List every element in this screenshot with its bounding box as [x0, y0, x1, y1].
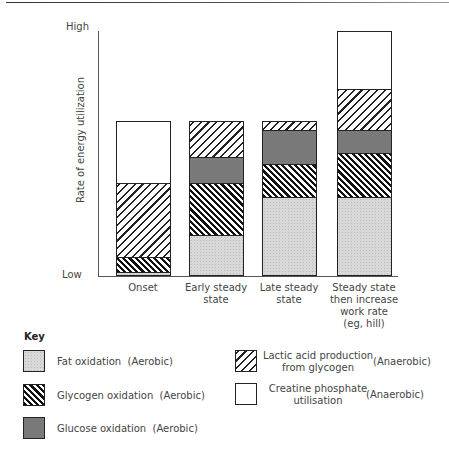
fat-segment: [117, 272, 170, 275]
glucose-segment: [190, 157, 243, 183]
lactic-segment: [263, 122, 316, 130]
legend-lactic: Lactic acid production from glycogen: [258, 350, 378, 374]
glycogen-segment: [190, 183, 243, 236]
lactic-segment: [338, 89, 391, 130]
lactic-segment: [190, 122, 243, 157]
fat-segment: [190, 235, 243, 275]
x-category-hill: Steady state then increase work rate (eg…: [319, 282, 409, 330]
legend-label: Glycogen oxidation: [57, 390, 153, 401]
fat-swatch-icon: [23, 350, 45, 372]
legend-type: (Aerobic): [160, 390, 205, 401]
x-category-line: work rate: [319, 306, 409, 318]
lactic-swatch-icon: [235, 350, 257, 372]
x-category-line: Steady state: [319, 282, 409, 294]
y-tick-low: Low: [62, 269, 82, 280]
fat-segment: [263, 197, 316, 275]
legend-type: (Aerobic): [153, 423, 198, 434]
glucose-segment: [263, 130, 316, 164]
bar-2: [189, 121, 244, 276]
legend-label: Glucose oxidation: [57, 423, 146, 434]
legend-creatine: Creatine phosphate utilisation: [258, 383, 378, 407]
legend-glycogen: Glycogen oxidation (Aerobic): [57, 390, 205, 401]
y-axis: [98, 31, 99, 276]
legend-label: utilisation: [258, 395, 378, 407]
fat-segment: [338, 197, 391, 275]
legend-label: from glycogen: [258, 362, 378, 374]
x-category-line: (eg, hill): [319, 318, 409, 330]
creatine-segment: [338, 32, 391, 89]
lactic-segment: [117, 183, 170, 257]
bar-1: [116, 121, 171, 276]
creatine-swatch-icon: [235, 383, 257, 405]
bar-3: [262, 121, 317, 276]
top-rule: [6, 2, 449, 3]
glycogen-swatch-icon: [23, 384, 45, 406]
legend-label: Lactic acid production: [258, 350, 378, 362]
y-axis-label: Rate of energy utilization: [75, 77, 86, 203]
legend-glucose: Glucose oxidation (Aerobic): [57, 423, 198, 434]
glycogen-segment: [338, 153, 391, 198]
creatine-segment: [117, 122, 170, 183]
bar-4: [337, 31, 392, 276]
legend-creatine-type: (Anaerobic): [366, 389, 424, 400]
legend-title: Key: [24, 331, 45, 342]
x-axis: [98, 276, 398, 277]
legend-fat: Fat oxidation (Aerobic): [57, 356, 173, 367]
glucose-swatch-icon: [23, 417, 45, 439]
glycogen-segment: [263, 164, 316, 198]
legend-label: Creatine phosphate: [258, 383, 378, 395]
legend-type: (Aerobic): [128, 356, 173, 367]
glycogen-segment: [117, 257, 170, 272]
y-tick-high: High: [66, 21, 89, 32]
legend-lactic-type: (Anaerobic): [373, 356, 431, 367]
legend-label: Fat oxidation: [57, 356, 121, 367]
x-category-line: then increase: [319, 294, 409, 306]
glucose-segment: [338, 130, 391, 153]
